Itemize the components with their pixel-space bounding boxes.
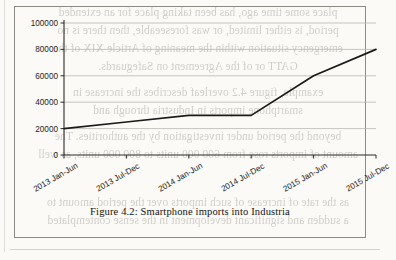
scanned-page: place some time ago, has been taking pla…: [0, 0, 396, 260]
figure-caption: Figure 4.2: Smartphone imports into Indu…: [14, 206, 366, 217]
figure-frame: [14, 6, 366, 238]
page-edge-rule: [4, 0, 5, 252]
page-bottom-rule: [10, 249, 380, 250]
